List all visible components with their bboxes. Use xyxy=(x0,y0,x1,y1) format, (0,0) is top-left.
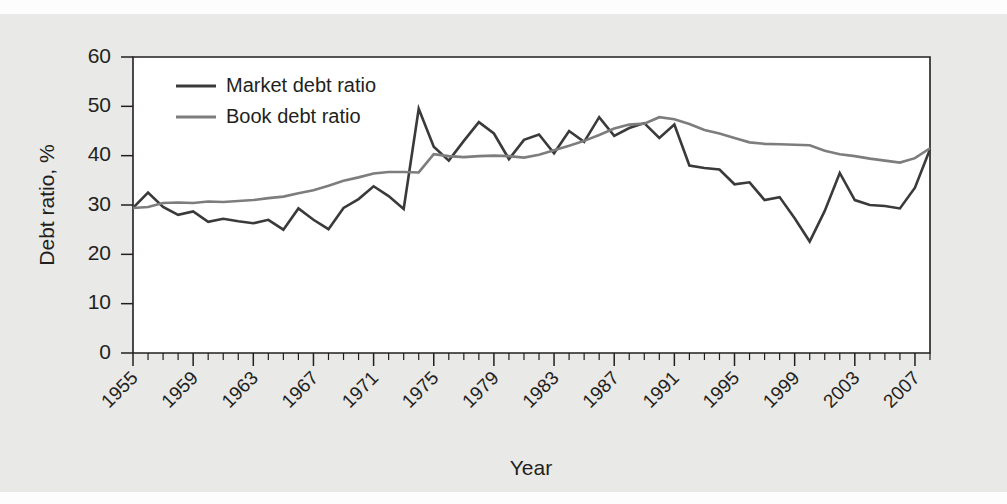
x-tick-label: 1999 xyxy=(759,367,804,412)
x-tick-label: 1995 xyxy=(699,367,744,412)
x-tick-label: 1971 xyxy=(338,367,383,412)
x-tick-label: 2007 xyxy=(879,367,924,412)
y-tick-label: 30 xyxy=(88,192,111,215)
x-tick-label: 1983 xyxy=(518,367,563,412)
y-tick-label: 50 xyxy=(88,93,111,116)
y-axis-title: Debt ratio, % xyxy=(35,144,58,265)
y-tick-label: 10 xyxy=(88,290,111,313)
debt-ratio-line-chart: 0102030405060 19551959196319671971197519… xyxy=(0,0,1007,504)
y-tick-label: 40 xyxy=(88,142,111,165)
y-tick-label: 20 xyxy=(88,241,111,264)
y-tick-label: 0 xyxy=(99,340,111,363)
x-tick-label: 1975 xyxy=(398,367,443,412)
x-tick-label: 1987 xyxy=(578,367,623,412)
y-axis-tick-labels: 0102030405060 xyxy=(88,44,111,363)
x-tick-label: 1959 xyxy=(157,367,202,412)
x-tick-label: 1955 xyxy=(97,367,142,412)
x-axis-tick-labels: 1955195919631967197119751979198319871991… xyxy=(97,367,924,412)
y-axis-ticks xyxy=(121,57,133,353)
x-tick-label: 2003 xyxy=(819,367,864,412)
x-tick-label: 1963 xyxy=(217,367,262,412)
x-tick-label: 1991 xyxy=(638,367,683,412)
x-tick-label: 1979 xyxy=(458,367,503,412)
x-axis-title: Year xyxy=(510,456,552,479)
plot-area-background xyxy=(133,57,930,353)
legend-label-market-debt-ratio: Market debt ratio xyxy=(226,74,376,96)
legend-label-book-debt-ratio: Book debt ratio xyxy=(226,105,361,127)
x-axis-minor-ticks xyxy=(148,353,930,360)
y-tick-label: 60 xyxy=(88,44,111,67)
chart-figure: 0102030405060 19551959196319671971197519… xyxy=(0,0,1007,504)
x-tick-label: 1967 xyxy=(278,367,323,412)
